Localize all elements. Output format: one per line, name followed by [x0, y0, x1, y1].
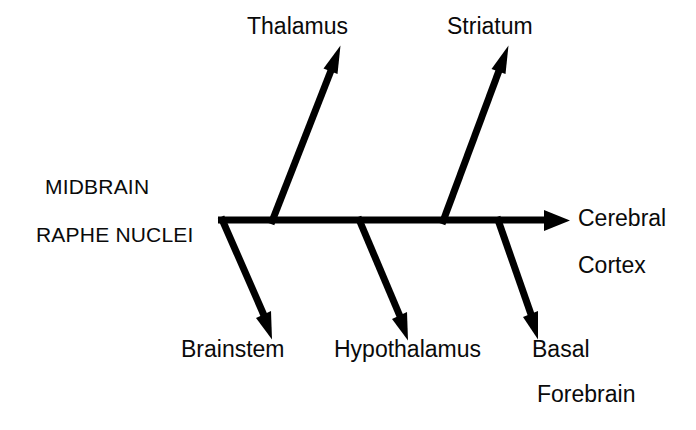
branch-arrow-striatum	[442, 46, 509, 225]
basal-forebrain-branch-line	[497, 217, 533, 320]
label-basal: Basal	[532, 338, 590, 361]
branch-arrow-hypothalamus	[358, 217, 408, 341]
spine-arrowhead	[544, 210, 570, 231]
branch-arrow-basal-forebrain	[497, 217, 538, 340]
label-brainstem: Brainstem	[181, 338, 285, 361]
label-thalamus: Thalamus	[247, 15, 348, 38]
brainstem-branch-line	[221, 217, 266, 320]
thalamus-arrowhead	[324, 46, 341, 75]
diagram-canvas: Thalamus Striatum MIDBRAIN RAPHE NUCLEI …	[0, 0, 696, 430]
hypothalamus-branch-line	[358, 217, 402, 321]
thalamus-branch-line	[271, 68, 332, 224]
label-midbrain: MIDBRAIN	[45, 176, 149, 197]
branch-arrow-thalamus	[271, 46, 341, 225]
label-cerebral: Cerebral	[578, 207, 666, 230]
branch-arrow-brainstem	[221, 217, 272, 340]
striatum-branch-line	[442, 68, 500, 224]
label-striatum: Striatum	[447, 15, 533, 38]
label-basal-forebrain-second-line: Forebrain	[537, 383, 635, 406]
label-hypothalamus: Hypothalamus	[334, 338, 481, 361]
striatum-arrowhead	[492, 46, 509, 75]
label-raphe-nuclei: RAPHE NUCLEI	[36, 224, 194, 245]
label-cerebral-cortex-second-line: Cortex	[578, 254, 646, 277]
